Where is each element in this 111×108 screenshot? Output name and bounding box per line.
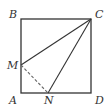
- segment-cm: [21, 19, 91, 65]
- label-m: M: [6, 59, 19, 72]
- label-d: D: [94, 94, 104, 107]
- label-c: C: [95, 8, 104, 21]
- square-abcd: [21, 19, 91, 93]
- square-diagram: B C M A N D: [0, 0, 111, 108]
- label-a: A: [8, 94, 17, 107]
- segment-cn: [48, 19, 91, 93]
- label-b: B: [8, 8, 17, 21]
- segment-mn-dashed: [21, 65, 48, 93]
- label-n: N: [43, 94, 54, 107]
